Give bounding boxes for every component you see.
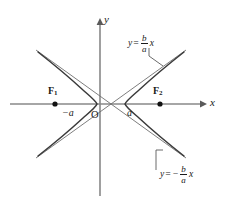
eq-pos-fraction: ba bbox=[141, 34, 148, 54]
figure-canvas bbox=[0, 0, 232, 208]
asymptote-negative-equation: y=−bax bbox=[160, 164, 193, 185]
eq-neg-denominator: a bbox=[180, 175, 187, 185]
eq-neg-numerator: b bbox=[180, 165, 187, 175]
focus-left-subscript: 1 bbox=[54, 89, 58, 97]
eq-pos-equals: = bbox=[132, 39, 139, 49]
vertex-right-label: a bbox=[127, 108, 132, 118]
eq-neg-equals: = bbox=[164, 170, 171, 180]
leader-lines-group bbox=[149, 48, 163, 170]
vertex-left-label: −a bbox=[62, 108, 74, 118]
origin-label: O bbox=[91, 110, 99, 121]
eq-neg-fraction: ba bbox=[180, 165, 187, 185]
x-axis-arrowhead bbox=[200, 101, 207, 108]
eq-pos-denominator: a bbox=[141, 44, 148, 54]
eq-neg-variable: x bbox=[188, 170, 193, 180]
x-axis-label: x bbox=[210, 97, 215, 108]
asymptote-positive-equation: y=bax bbox=[128, 33, 154, 54]
focus-right-dot bbox=[157, 101, 162, 106]
y-axis-arrowhead bbox=[97, 18, 104, 25]
focus-right-label: F2 bbox=[153, 86, 163, 97]
eq-pos-variable: x bbox=[149, 39, 154, 49]
eq-neg-sign: − bbox=[172, 170, 179, 180]
focus-right-subscript: 2 bbox=[159, 89, 163, 97]
y-axis-label: y bbox=[104, 14, 109, 25]
eq-pos-numerator: b bbox=[141, 34, 148, 44]
focus-left-dot bbox=[52, 101, 57, 106]
focus-left-label: F1 bbox=[48, 86, 58, 97]
hyperbola-figure: y x O F1 F2 −a a y=bax y=−bax bbox=[0, 0, 232, 208]
